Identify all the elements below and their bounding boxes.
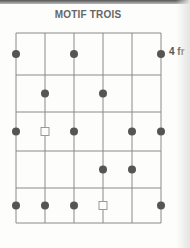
note-dot [12,128,20,136]
note-dot [99,90,107,98]
note-dot [41,90,49,98]
note-dot [70,128,78,136]
root-note-square [99,202,107,210]
note-dot [70,50,78,58]
fretboard-grid [16,33,161,223]
note-markers [12,50,165,210]
note-dot [12,202,20,210]
note-dot [157,50,165,58]
note-dot [41,202,49,210]
note-dot [12,50,20,58]
note-dot [70,202,78,210]
fretboard-diagram [0,0,190,248]
page-edge-shadow [176,0,190,248]
note-dot [157,128,165,136]
note-dot [128,128,136,136]
root-note-square [41,128,49,136]
note-dot [157,202,165,210]
note-dot [99,166,107,174]
note-dot [128,166,136,174]
